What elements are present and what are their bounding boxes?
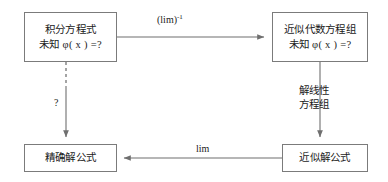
node-approx-algebraic-system-line-1: 近似代数方程组 <box>284 23 356 37</box>
node-exact-solution-formula: 精确解公式 <box>24 144 117 172</box>
edge-label-solve-linear-system-line-2: 方程组 <box>299 98 329 112</box>
edge-label-lim-inverse: (lim)-1 <box>157 13 183 26</box>
node-approx-solution-formula-line-1: 近似解公式 <box>299 151 351 165</box>
flowchart-diagram: 积分方程式 未知 φ( x ) =? 近似代数方程组 未知 φ( x ) =? … <box>0 0 388 182</box>
edge-label-lim: lim <box>196 142 209 155</box>
node-exact-solution-formula-line-1: 精确解公式 <box>45 151 97 165</box>
edge-label-solve-linear-system-line-1: 解线性 <box>299 84 329 98</box>
edge-label-lim-inverse-base: (lim) <box>157 14 177 25</box>
node-approx-algebraic-system: 近似代数方程组 未知 φ( x ) =? <box>272 12 368 62</box>
node-integral-equation-line-1: 积分方程式 <box>45 23 97 37</box>
node-approx-solution-formula: 近似解公式 <box>282 144 368 172</box>
node-integral-equation-line-2: 未知 φ( x ) =? <box>39 38 102 52</box>
edge-label-question-mark: ? <box>54 96 58 109</box>
node-integral-equation: 积分方程式 未知 φ( x ) =? <box>24 12 117 62</box>
edge-label-solve-linear-system: 解线性 方程组 <box>299 84 329 112</box>
node-approx-algebraic-system-line-2: 未知 φ( x ) =? <box>289 38 352 52</box>
edge-label-lim-inverse-exponent: -1 <box>177 13 183 21</box>
